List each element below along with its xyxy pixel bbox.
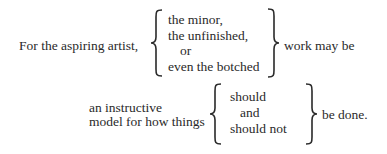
block1-item-unfinished: the unfinished,	[168, 28, 248, 43]
block1-lead: For the aspiring artist,	[19, 38, 138, 53]
right-brace-icon	[304, 83, 318, 145]
left-brace-icon	[150, 9, 164, 77]
block1-tail: work may be	[284, 38, 354, 53]
right-brace-icon	[266, 8, 280, 78]
block1-item-botched: even the botched	[168, 59, 259, 74]
block2-item-and: and	[240, 105, 260, 120]
left-brace-icon	[209, 83, 223, 145]
block2-tail: be done.	[322, 107, 368, 122]
block2-lead-line2: model for how things	[89, 114, 205, 129]
block1-item-or: or	[180, 43, 191, 58]
block2-lead-line1: an instructive	[89, 100, 162, 115]
block2-item-should: should	[230, 89, 266, 104]
block1-item-minor: the minor,	[168, 12, 223, 27]
block2-item-should-not: should not	[230, 121, 287, 136]
